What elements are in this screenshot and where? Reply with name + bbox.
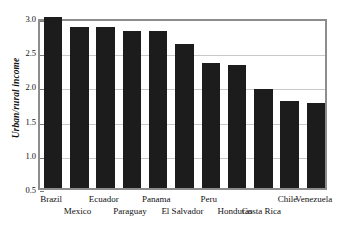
bar	[44, 17, 62, 188]
y-axis-tick-labels: 0.51.01.52.02.53.0	[14, 14, 36, 194]
x-axis-category-label: Peru	[201, 195, 218, 204]
x-axis-category-label: Venezuela	[295, 195, 332, 204]
y-axis-tick-label: 1.0	[25, 152, 36, 161]
x-axis-category-label: Mexico	[64, 207, 92, 216]
bar-series	[40, 21, 325, 188]
bar	[202, 63, 220, 188]
x-axis-category-label: Ecuador	[89, 195, 119, 204]
bar	[307, 103, 325, 189]
x-axis-category-label: Panama	[142, 195, 171, 204]
x-axis-category-label: Paraguay	[113, 207, 147, 216]
bar	[228, 65, 246, 188]
bar	[96, 27, 114, 188]
bar	[149, 31, 167, 188]
x-axis-category-label: Costa Rica	[242, 207, 281, 216]
bar	[123, 31, 141, 188]
x-axis-category-label: El Salvador	[161, 207, 203, 216]
plot-area	[38, 19, 327, 190]
bar-chart-figure: Urban/rural income 0.51.01.52.02.53.0 Br…	[0, 0, 346, 234]
y-axis-tick-label: 0.5	[25, 186, 36, 195]
bar	[175, 44, 193, 188]
y-axis-tick-label: 3.0	[25, 15, 36, 24]
y-axis-tick-label: 2.0	[25, 83, 36, 92]
bar	[280, 101, 298, 188]
bar	[254, 89, 272, 188]
y-axis-tick-label: 2.5	[25, 49, 36, 58]
y-axis-tick-label: 1.5	[25, 117, 36, 126]
x-axis-category-label: Brazil	[40, 195, 62, 204]
bar	[70, 27, 88, 188]
x-axis-category-labels: BrazilMexicoEcuadorParaguayPanamaEl Salv…	[38, 193, 327, 233]
y-axis-tick-mark	[40, 191, 44, 192]
